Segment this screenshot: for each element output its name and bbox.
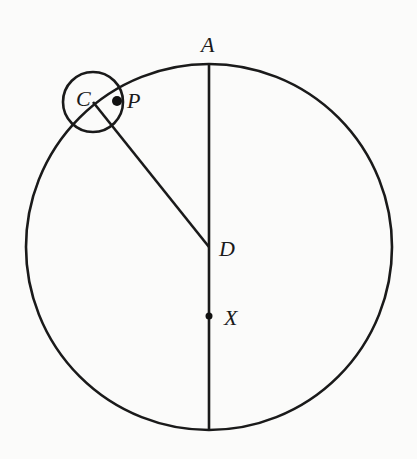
label-a: A [199,32,215,57]
line-c-to-d [93,102,209,247]
label-c: C [76,86,91,111]
point-x-dot [206,313,213,320]
point-p-dot [112,96,122,106]
label-p: P [126,88,140,113]
label-d: D [218,236,235,261]
label-x: X [223,305,239,330]
geometry-diagram: A C P D X [0,0,417,459]
